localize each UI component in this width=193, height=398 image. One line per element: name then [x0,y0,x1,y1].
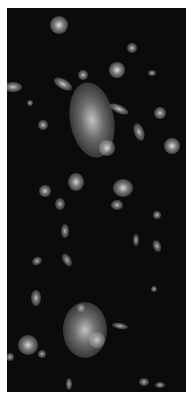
galaxy [38,120,48,130]
galaxy [7,353,14,361]
galaxy [113,179,133,197]
galaxy-cluster-photo [7,8,186,392]
galaxy [154,107,166,119]
galaxy [39,185,51,197]
galaxy [153,211,161,219]
galaxy [164,138,180,154]
galaxy [112,322,129,331]
galaxy [77,304,85,312]
galaxy [27,100,33,106]
galaxy [99,140,115,156]
galaxy [60,252,74,268]
galaxy [131,122,147,142]
galaxy [127,43,137,53]
galaxy [151,286,157,292]
galaxy [151,239,163,253]
galaxy [52,75,74,94]
galaxy [55,198,65,210]
galaxy [109,62,125,78]
galaxy [139,378,149,386]
galaxy [133,234,139,246]
galaxy [63,302,107,358]
galaxy [111,200,123,210]
galaxy [7,82,22,92]
galaxy [66,378,72,390]
galaxy [89,332,105,348]
galaxy [68,173,84,191]
galaxy [155,382,165,388]
galaxy [31,290,41,306]
galaxy [18,335,38,355]
galaxy [38,350,46,358]
galaxy [31,255,44,267]
galaxy [148,70,156,76]
galaxy [78,70,88,80]
galaxy [61,224,69,238]
galaxy [50,16,68,34]
